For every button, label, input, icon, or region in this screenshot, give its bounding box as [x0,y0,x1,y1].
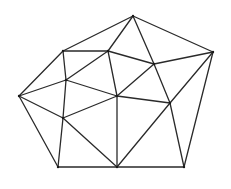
edge-CF [66,51,108,80]
edge-HI [117,96,170,103]
vertex-I [169,102,171,104]
vertex-C [107,50,109,52]
edge-AD [133,16,213,52]
vertex-L [116,166,118,168]
triangulation-diagram [0,0,231,189]
edge-AB [63,16,133,51]
vertex-J [62,117,64,119]
edge-CE [108,51,154,64]
edge-EH [117,64,154,96]
edge-EI [154,64,170,103]
vertex-A [132,15,134,17]
vertex-G [18,95,20,97]
edge-HJ [63,96,117,118]
vertex-D [212,51,214,53]
vertex-F [65,79,67,81]
vertex-E [153,63,155,65]
edge-JK [58,118,63,167]
vertex-B [62,50,64,52]
vertex-M [183,166,185,168]
edge-BG [19,51,63,96]
edge-IL [117,103,170,167]
edges-group [19,16,213,167]
edge-IM [170,103,184,167]
edge-FJ [63,80,66,118]
vertex-K [57,166,59,168]
edge-BF [63,51,66,80]
edge-AC [108,16,133,51]
vertex-H [116,95,118,97]
edge-JL [63,118,117,167]
edge-GK [19,96,58,167]
edge-AE [133,16,154,64]
edge-FH [66,80,117,96]
edge-CH [108,51,117,96]
